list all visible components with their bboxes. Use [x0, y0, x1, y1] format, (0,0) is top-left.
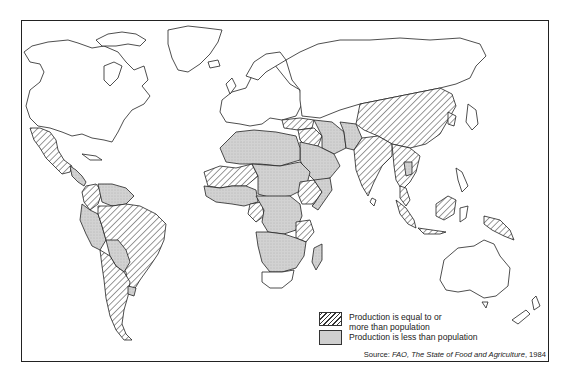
west-africa-hatched — [204, 164, 258, 188]
uruguay — [128, 286, 136, 296]
legend-label-line1: Production is equal to or — [349, 312, 442, 322]
venezuela-guianas — [98, 184, 134, 206]
source-title: FAO, The State of Food and Agriculture — [392, 350, 525, 359]
korea — [448, 112, 456, 126]
west-africa-gray — [204, 186, 258, 206]
central-america — [70, 166, 86, 186]
source-prefix: Source: — [364, 350, 392, 359]
iceland — [208, 60, 220, 68]
legend-item-less-than: Production is less than population — [319, 330, 478, 345]
gray-swatch-icon — [319, 330, 342, 345]
java — [418, 228, 446, 234]
sulawesi — [460, 206, 468, 222]
india — [354, 136, 392, 196]
new-zealand-south — [512, 310, 530, 324]
legend-label-line1: Production is less than population — [349, 332, 478, 342]
sri-lanka — [370, 198, 376, 206]
new-guinea — [484, 216, 514, 240]
legend-label: Production is less than population — [349, 332, 478, 342]
philippines — [456, 168, 468, 192]
australia — [440, 240, 510, 298]
north-africa — [220, 130, 300, 166]
new-zealand-north — [532, 296, 540, 310]
south-africa — [262, 270, 294, 288]
cuba — [82, 154, 102, 160]
madagascar — [312, 244, 322, 270]
north-america — [24, 40, 150, 142]
tasmania — [482, 302, 488, 308]
world-map — [0, 0, 571, 376]
borneo — [436, 196, 456, 220]
arctic-islands — [96, 32, 146, 46]
mexico — [30, 128, 72, 174]
malay-peninsula — [400, 186, 410, 206]
hatched-swatch-icon — [319, 312, 342, 326]
central-africa — [256, 196, 302, 234]
source-citation: Source: FAO, The State of Food and Agric… — [364, 350, 546, 359]
legend-label: Production is equal to or more than popu… — [349, 312, 442, 332]
japan — [466, 104, 478, 130]
source-year: , 1984 — [525, 350, 546, 359]
legend-item-equal-or-more: Production is equal to or more than popu… — [319, 312, 442, 332]
